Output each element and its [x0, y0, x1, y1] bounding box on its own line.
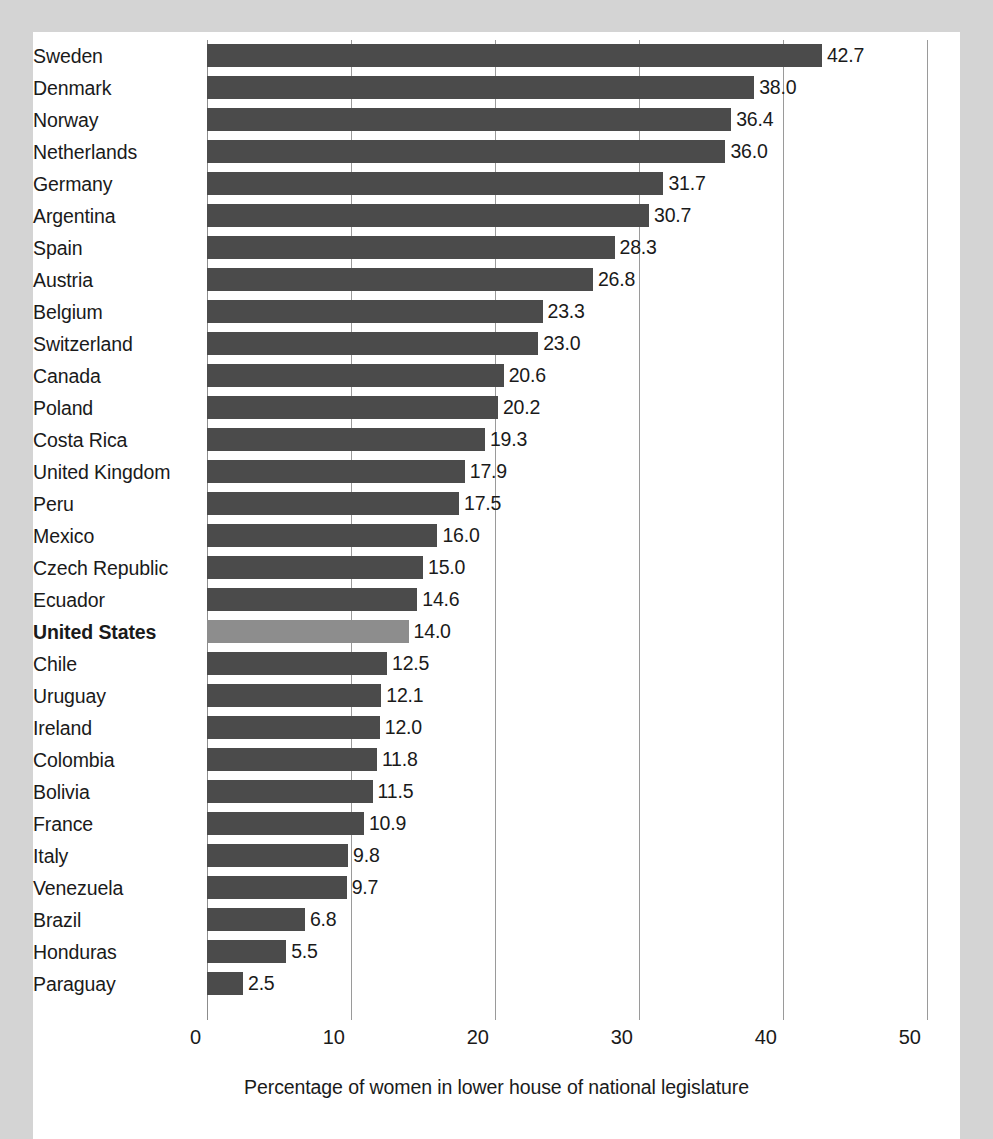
bar-row: Peru17.5	[33, 488, 960, 520]
bar-value-label: 9.7	[352, 872, 379, 904]
category-label: Ireland	[33, 712, 195, 744]
category-label: Germany	[33, 168, 195, 200]
bar-value-label: 11.8	[382, 744, 418, 776]
bar-row: Canada20.6	[33, 360, 960, 392]
bar-value-label: 6.8	[310, 904, 337, 936]
bar-value-label: 20.6	[509, 360, 546, 392]
x-axis: 01020304050	[33, 1020, 960, 1064]
bar-row: Mexico16.0	[33, 520, 960, 552]
category-label: United States	[33, 616, 195, 648]
bar-row: Costa Rica19.3	[33, 424, 960, 456]
x-tick-label-20: 20	[467, 1026, 495, 1049]
bar-value-label: 42.7	[827, 40, 864, 72]
bar-row: Chile12.5	[33, 648, 960, 680]
bar-row: Ecuador14.6	[33, 584, 960, 616]
bar-value-label: 14.0	[414, 616, 451, 648]
bar-value-label: 10.9	[369, 808, 406, 840]
bar-row: Argentina30.7	[33, 200, 960, 232]
category-label: Denmark	[33, 72, 195, 104]
bar	[207, 44, 822, 67]
bar	[207, 524, 437, 547]
category-label: Belgium	[33, 296, 195, 328]
category-label: Argentina	[33, 200, 195, 232]
bar-row: Colombia11.8	[33, 744, 960, 776]
category-label: Switzerland	[33, 328, 195, 360]
category-label: Czech Republic	[33, 552, 195, 584]
bar	[207, 236, 615, 259]
category-label: Canada	[33, 360, 195, 392]
bar	[207, 620, 409, 643]
bar-value-label: 28.3	[620, 232, 657, 264]
bar	[207, 972, 243, 995]
plot-area: Sweden42.7Denmark38.0Norway36.4Netherlan…	[33, 32, 960, 1020]
bar-value-label: 38.0	[759, 72, 796, 104]
bar-row: Honduras5.5	[33, 936, 960, 968]
bar-row: Venezuela9.7	[33, 872, 960, 904]
bar	[207, 716, 380, 739]
category-label: Austria	[33, 264, 195, 296]
bar-value-label: 20.2	[503, 392, 540, 424]
bar-value-label: 5.5	[291, 936, 318, 968]
bar	[207, 172, 663, 195]
bar-row: Germany31.7	[33, 168, 960, 200]
bar	[207, 492, 459, 515]
bar-row: Netherlands36.0	[33, 136, 960, 168]
bar-row: Bolivia11.5	[33, 776, 960, 808]
bar	[207, 140, 725, 163]
category-label: United Kingdom	[33, 456, 195, 488]
bar	[207, 908, 305, 931]
category-label: Paraguay	[33, 968, 195, 1000]
bar-value-label: 11.5	[378, 776, 414, 808]
bar-value-label: 17.5	[464, 488, 501, 520]
bar-row: Denmark38.0	[33, 72, 960, 104]
bar-value-label: 12.5	[392, 648, 429, 680]
bar	[207, 428, 485, 451]
bar-row: Brazil6.8	[33, 904, 960, 936]
bar-value-label: 23.3	[548, 296, 585, 328]
bar	[207, 268, 593, 291]
category-label: France	[33, 808, 195, 840]
category-label: Bolivia	[33, 776, 195, 808]
bar-rows: Sweden42.7Denmark38.0Norway36.4Netherlan…	[33, 32, 960, 1020]
bar	[207, 76, 754, 99]
category-label: Peru	[33, 488, 195, 520]
bar-row: Sweden42.7	[33, 40, 960, 72]
bar-value-label: 14.6	[422, 584, 459, 616]
x-tick-label-40: 40	[755, 1026, 783, 1049]
bar-row: Poland20.2	[33, 392, 960, 424]
bar	[207, 332, 538, 355]
category-label: Italy	[33, 840, 195, 872]
bar-value-label: 12.1	[386, 680, 423, 712]
bar-value-label: 19.3	[490, 424, 527, 456]
bar-row: Switzerland23.0	[33, 328, 960, 360]
bar-row: Uruguay12.1	[33, 680, 960, 712]
bar-value-label: 16.0	[442, 520, 479, 552]
x-tick-label-10: 10	[323, 1026, 351, 1049]
bar	[207, 108, 731, 131]
category-label: Venezuela	[33, 872, 195, 904]
bar-row: France10.9	[33, 808, 960, 840]
bar-row: Belgium23.3	[33, 296, 960, 328]
bar	[207, 556, 423, 579]
bar-row: Paraguay2.5	[33, 968, 960, 1000]
bar-value-label: 30.7	[654, 200, 691, 232]
bar-row: United States14.0	[33, 616, 960, 648]
x-tick-label-50: 50	[899, 1026, 927, 1049]
bar-row: Czech Republic15.0	[33, 552, 960, 584]
bar-value-label: 15.0	[428, 552, 465, 584]
bar-row: Italy9.8	[33, 840, 960, 872]
bar-value-label: 26.8	[598, 264, 635, 296]
bar-value-label: 12.0	[385, 712, 422, 744]
bar	[207, 364, 504, 387]
category-label: Uruguay	[33, 680, 195, 712]
category-label: Spain	[33, 232, 195, 264]
bar	[207, 748, 377, 771]
bar-value-label: 9.8	[353, 840, 380, 872]
bar	[207, 460, 465, 483]
category-label: Brazil	[33, 904, 195, 936]
bar	[207, 588, 417, 611]
bar-row: Spain28.3	[33, 232, 960, 264]
bar	[207, 300, 543, 323]
chart-panel: Sweden42.7Denmark38.0Norway36.4Netherlan…	[33, 32, 960, 1139]
category-label: Honduras	[33, 936, 195, 968]
